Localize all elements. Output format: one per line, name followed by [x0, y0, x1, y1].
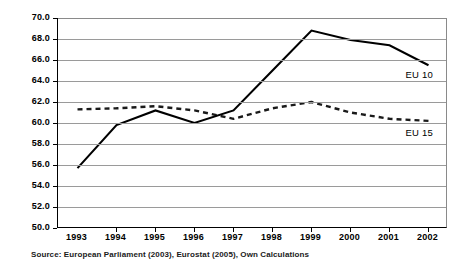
- y-tick-mark: [53, 207, 57, 208]
- y-tick-mark: [53, 186, 57, 187]
- gridline: [58, 39, 446, 40]
- series-line-eu-15: [78, 102, 429, 121]
- x-tick-mark: [272, 228, 273, 232]
- x-tick-label: 1993: [57, 232, 97, 242]
- y-tick-mark: [53, 81, 57, 82]
- gridline: [58, 186, 446, 187]
- x-tick-mark: [428, 228, 429, 232]
- y-tick-mark: [53, 39, 57, 40]
- x-tick-label: 2000: [330, 232, 370, 242]
- x-tick-mark: [233, 228, 234, 232]
- y-tick-mark: [53, 165, 57, 166]
- source-note: Source: European Parliament (2003), Euro…: [31, 250, 309, 259]
- y-tick-label: 54.0: [16, 180, 50, 190]
- gridline: [58, 123, 446, 124]
- x-tick-label: 1998: [252, 232, 292, 242]
- y-tick-mark: [53, 144, 57, 145]
- gridline: [58, 207, 446, 208]
- x-tick-label: 1997: [213, 232, 253, 242]
- x-tick-mark: [311, 228, 312, 232]
- y-tick-label: 56.0: [16, 159, 50, 169]
- y-tick-label: 50.0: [16, 222, 50, 232]
- x-tick-label: 2002: [408, 232, 448, 242]
- gridline: [58, 60, 446, 61]
- gridline: [58, 102, 446, 103]
- y-tick-mark: [53, 60, 57, 61]
- y-tick-label: 62.0: [16, 96, 50, 106]
- y-tick-label: 58.0: [16, 138, 50, 148]
- y-tick-label: 66.0: [16, 54, 50, 64]
- series-line-eu-10: [78, 31, 429, 169]
- y-tick-label: 70.0: [16, 12, 50, 22]
- y-tick-mark: [53, 102, 57, 103]
- x-tick-label: 1996: [174, 232, 214, 242]
- x-tick-label: 1994: [96, 232, 136, 242]
- line-chart: EU 10 EU 15 Source: European Parliament …: [0, 0, 469, 274]
- y-tick-label: 60.0: [16, 117, 50, 127]
- series-label-eu-15: EU 15: [406, 127, 433, 138]
- x-tick-mark: [155, 228, 156, 232]
- x-tick-label: 1999: [291, 232, 331, 242]
- gridline: [58, 165, 446, 166]
- x-tick-label: 1995: [135, 232, 175, 242]
- series-label-eu-10: EU 10: [406, 69, 433, 80]
- x-tick-label: 2001: [369, 232, 409, 242]
- y-tick-label: 68.0: [16, 33, 50, 43]
- x-tick-mark: [350, 228, 351, 232]
- gridline: [58, 18, 446, 19]
- plot-area: [57, 18, 447, 228]
- y-tick-mark: [53, 228, 57, 229]
- x-tick-mark: [389, 228, 390, 232]
- gridline: [58, 144, 446, 145]
- y-tick-mark: [53, 123, 57, 124]
- gridline: [58, 81, 446, 82]
- y-tick-label: 64.0: [16, 75, 50, 85]
- x-tick-mark: [194, 228, 195, 232]
- y-tick-label: 52.0: [16, 201, 50, 211]
- x-tick-mark: [116, 228, 117, 232]
- y-tick-mark: [53, 18, 57, 19]
